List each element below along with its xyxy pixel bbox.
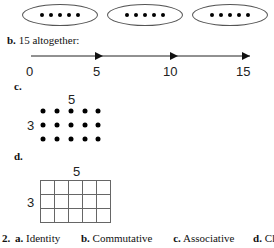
dot [210,13,214,17]
dot [40,13,44,17]
array-columns-label: 5 [68,92,75,107]
answer-a-text: Identity [26,232,60,244]
dot [152,13,156,17]
dot-array [38,106,104,146]
part-b-heading: b. 15 altogether: [7,34,79,46]
dot-group-oval [192,4,268,26]
dot [161,13,165,17]
question-number: 2. [2,232,10,244]
answer-c-text: Associative [183,232,234,244]
answer-d-label: d. [253,232,262,244]
dot [134,13,138,17]
dot [76,13,80,17]
dot [125,13,129,17]
dot [143,13,147,17]
tick-label-0: 0 [26,64,33,79]
area-grid [40,180,111,223]
answer-b-text: Commutative [93,232,153,244]
part-d-label: d. [14,150,23,162]
dot-group-oval [22,4,98,26]
dot [237,13,241,17]
dot-group-oval [107,4,183,26]
part-b-text: 15 altogether: [19,34,80,46]
part-b-label: b. [7,34,16,46]
tick-label-10: 10 [163,64,177,79]
answer-d-text: Clo [265,232,274,244]
answer-a-label: a. [15,232,23,244]
dot [49,13,53,17]
dot [67,13,71,17]
dot [246,13,250,17]
number-line [0,48,274,68]
grid-columns-label: 5 [73,164,80,179]
dot [219,13,223,17]
answer-c-label: c. [173,232,181,244]
part-c-label: c. [14,80,22,92]
tick-label-5: 5 [93,64,100,79]
dot [228,13,232,17]
answer-b-label: b. [81,232,90,244]
grid-rows-label: 3 [27,195,34,210]
array-rows-label: 3 [27,118,34,133]
dot [58,13,62,17]
tick-label-15: 15 [236,64,250,79]
question-2-answers: 2. a. Identity b. Commutative c. Associa… [2,232,274,244]
